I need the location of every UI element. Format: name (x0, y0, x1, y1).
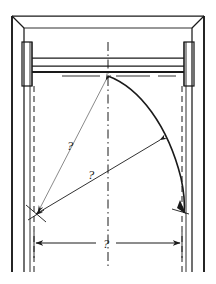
swing-arc (108, 76, 189, 214)
drawing-canvas: ? ? ? (0, 0, 216, 284)
leader-radius-lower (36, 140, 160, 214)
frame-outer (12, 16, 204, 272)
leader-convergence-mark (26, 205, 46, 222)
radius-label-lower: ? (88, 167, 95, 182)
frame-mitre-corners (12, 16, 204, 28)
technical-drawing-svg: ? ? ? (0, 0, 216, 284)
width-dimension-label: ? (103, 236, 110, 251)
radius-label-upper: ? (67, 138, 74, 153)
